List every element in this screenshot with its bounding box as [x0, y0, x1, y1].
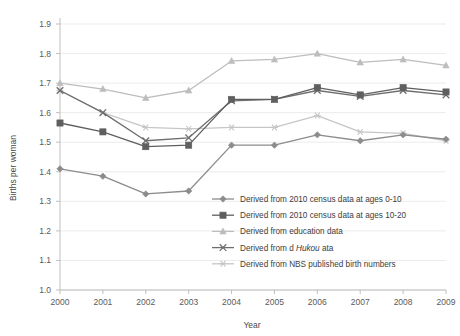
data-point-asterisk	[142, 125, 149, 131]
y-tick-label: 1.5	[39, 137, 51, 147]
series-line	[60, 91, 446, 141]
data-point-diamond	[357, 138, 363, 144]
data-point-diamond	[271, 142, 277, 148]
data-point-square	[220, 212, 226, 218]
series-line	[60, 54, 446, 98]
x-tick-label: 2005	[265, 297, 284, 307]
series-line	[60, 88, 446, 147]
y-tick-label: 1.0	[39, 285, 51, 295]
fertility-line-chart: 1.01.11.21.31.41.51.61.71.81.9 200020012…	[0, 0, 460, 336]
legend-item-3[interactable]: Derived from d Hukou ata	[212, 244, 334, 253]
data-point-asterisk	[220, 261, 227, 267]
legend-item-0[interactable]: Derived from 2010 census data at ages 0-…	[212, 195, 402, 204]
x-tick-label: 2000	[51, 297, 70, 307]
x-tick-label: 2007	[351, 297, 370, 307]
data-point-square	[443, 89, 449, 95]
data-point-diamond	[57, 166, 63, 172]
y-tick-label: 1.4	[39, 167, 51, 177]
data-point-asterisk	[271, 125, 278, 131]
y-axis-tick-labels: 1.01.11.21.31.41.51.61.71.81.9	[39, 19, 51, 295]
x-tick-label: 2006	[308, 297, 327, 307]
data-point-asterisk	[357, 129, 364, 135]
x-tick-label: 2002	[136, 297, 155, 307]
y-tick-label: 1.8	[39, 49, 51, 59]
x-axis-tick-labels: 2000200120022003200420052006200720082009	[51, 297, 456, 307]
series-3	[57, 87, 450, 144]
series-2	[57, 50, 449, 100]
x-tick-label: 2003	[179, 297, 198, 307]
data-point-square	[186, 142, 192, 148]
series-4	[57, 88, 450, 144]
legend-label: Derived from NBS published birth numbers	[240, 260, 396, 269]
y-tick-label: 1.3	[39, 196, 51, 206]
chart-legend: Derived from 2010 census data at ages 0-…	[212, 195, 407, 269]
data-point-square	[100, 129, 106, 135]
data-point-asterisk	[185, 126, 192, 132]
data-point-square	[314, 84, 320, 90]
data-series-layer	[57, 50, 450, 197]
legend-label: Derived from 2010 census data at ages 0-…	[240, 195, 402, 204]
legend-item-1[interactable]: Derived from 2010 census data at ages 10…	[212, 211, 407, 220]
x-tick-label: 2008	[394, 297, 413, 307]
y-tick-label: 1.2	[39, 226, 51, 236]
data-point-asterisk	[314, 113, 321, 119]
data-point-diamond	[400, 132, 406, 138]
legend-label: Derived from education data	[240, 227, 343, 236]
data-point-square	[143, 144, 149, 150]
y-tick-label: 1.1	[39, 255, 51, 265]
y-tick-label: 1.6	[39, 108, 51, 118]
data-point-square	[271, 96, 277, 102]
chart-figure: 1.01.11.21.31.41.51.61.71.81.9 200020012…	[0, 0, 460, 336]
legend-item-4[interactable]: Derived from NBS published birth numbers	[212, 260, 396, 269]
data-point-square	[357, 92, 363, 98]
x-tick-label: 2004	[222, 297, 241, 307]
y-tick-label: 1.9	[39, 19, 51, 29]
data-point-triangle	[185, 87, 191, 93]
data-point-square	[400, 84, 406, 90]
x-tick-label: 2001	[93, 297, 112, 307]
data-point-square	[228, 96, 234, 102]
y-tick-label: 1.7	[39, 78, 51, 88]
data-point-diamond	[443, 136, 449, 142]
series-line	[60, 135, 446, 194]
data-point-square	[57, 120, 63, 126]
legend-item-2[interactable]: Derived from education data	[212, 227, 343, 236]
x-tick-label: 2009	[437, 297, 456, 307]
data-point-asterisk	[228, 125, 235, 131]
legend-label: Derived from 2010 census data at ages 10…	[240, 211, 407, 220]
data-point-diamond	[314, 132, 320, 138]
y-axis-title: Births per woman	[8, 135, 18, 201]
data-point-diamond	[100, 173, 106, 179]
data-point-diamond	[143, 191, 149, 197]
x-axis-title: Year	[243, 320, 260, 330]
series-0	[57, 132, 449, 198]
legend-label: Derived from d Hukou ata	[240, 244, 334, 253]
